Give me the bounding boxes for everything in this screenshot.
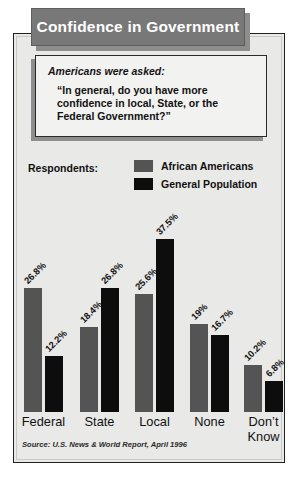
category-label: Local	[123, 414, 186, 429]
bar-fill	[190, 324, 208, 412]
bar: 25.6%	[135, 294, 153, 412]
bar-value-label: 19%	[189, 302, 209, 322]
bar-value-label: 12.2%	[43, 328, 69, 354]
category-label: Don’t Know	[232, 414, 295, 444]
question-intro: Americans were asked:	[48, 65, 256, 77]
bar: 26.8%	[101, 288, 119, 412]
bar-value-label: 16.7%	[209, 307, 235, 333]
bar: 12.2%	[45, 356, 63, 412]
bar: 19%	[190, 324, 208, 412]
bar: 26.8%	[24, 288, 42, 412]
legend-label-general-population: General Population	[161, 178, 257, 190]
bar-fill	[244, 365, 262, 412]
bar-value-label: 10.2%	[242, 337, 268, 363]
category-label: State	[68, 414, 131, 429]
bar-group: 26.8%12.2%	[24, 288, 63, 412]
bar: 18.4%	[80, 327, 98, 412]
page-title: Confidence in Government	[37, 18, 240, 36]
bar-group: 25.6%37.5%	[135, 239, 174, 412]
legend-label-african-americans: African Americans	[161, 160, 253, 172]
bar-value-label: 37.5%	[154, 211, 180, 237]
legend-swatch-african-americans	[134, 160, 153, 172]
bar-value-label: 26.8%	[99, 260, 125, 286]
bar-fill	[45, 356, 63, 412]
legend-item-general-population: General Population	[134, 178, 257, 190]
legend-swatch-general-population	[134, 178, 153, 190]
question-box: Americans were asked: “In general, do yo…	[35, 55, 267, 137]
bar: 6.8%	[265, 381, 283, 412]
bar-chart-plot: 26.8%12.2%18.4%26.8%25.6%37.5%19%16.7%10…	[18, 200, 280, 412]
bar: 37.5%	[156, 239, 174, 412]
infographic-poster: Confidence in Government Americans were …	[0, 0, 303, 477]
legend-title: Respondents:	[28, 162, 98, 174]
bar-fill	[265, 381, 283, 412]
bar-fill	[135, 294, 153, 412]
bar-fill	[80, 327, 98, 412]
question-text: “In general, do you have more confidence…	[48, 84, 256, 124]
legend: Respondents: African Americans General P…	[28, 160, 278, 198]
bar-fill	[211, 335, 229, 412]
bar-fill	[24, 288, 42, 412]
bar-fill	[156, 239, 174, 412]
bar-value-label: 26.8%	[22, 260, 48, 286]
source-note: Source: U.S. News & World Report, April …	[22, 440, 187, 449]
bar: 16.7%	[211, 335, 229, 412]
title-banner: Confidence in Government	[31, 8, 245, 46]
bar-group: 10.2%6.8%	[244, 365, 283, 412]
bar-fill	[101, 288, 119, 412]
bar-value-label: 6.8%	[264, 357, 286, 379]
category-label: Federal	[12, 414, 75, 429]
legend-item-african-americans: African Americans	[134, 160, 253, 172]
bar-group: 19%16.7%	[190, 324, 229, 412]
bar-group: 18.4%26.8%	[80, 288, 119, 412]
bar: 10.2%	[244, 365, 262, 412]
